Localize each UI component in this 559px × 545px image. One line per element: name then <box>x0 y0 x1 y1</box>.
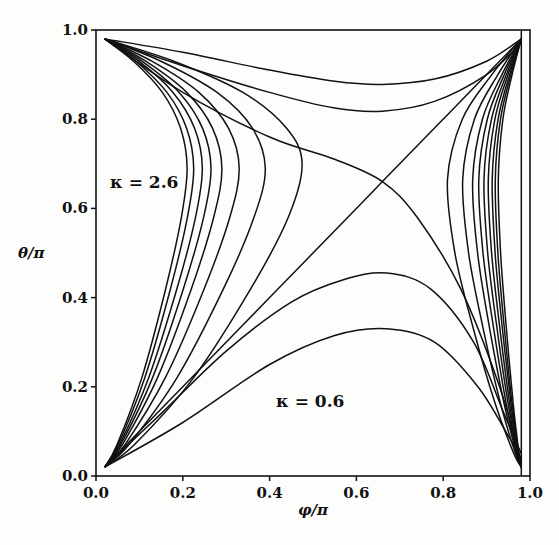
curve-top-1 <box>105 39 522 85</box>
x-tick-label: 0.0 <box>83 484 109 502</box>
x-axis-label: φ/π <box>298 501 329 519</box>
x-tick-label: 0.6 <box>343 484 369 502</box>
annotation-kappa-low: κ = 0.6 <box>276 391 344 411</box>
curve-left-7 <box>105 39 266 467</box>
curve-left-5 <box>105 39 222 467</box>
y-tick-label: 0.0 <box>62 467 88 485</box>
y-axis-label: θ/π <box>18 244 45 262</box>
y-tick-label: 0.6 <box>62 199 88 217</box>
x-tick-label: 0.4 <box>257 484 283 502</box>
chart: 0.00.20.40.60.81.0 0.00.20.40.60.81.0 φ/… <box>0 0 559 545</box>
curve-left-4 <box>105 39 211 467</box>
x-tick-label: 0.8 <box>430 484 456 502</box>
y-tick-label: 0.2 <box>62 378 88 396</box>
x-tick-label: 0.2 <box>170 484 196 502</box>
curve-right-3 <box>473 39 522 467</box>
y-axis: 0.00.20.40.60.81.0 <box>62 21 96 485</box>
x-tick-label: 1.0 <box>517 484 543 502</box>
annotation-kappa-high: κ = 2.6 <box>110 172 178 192</box>
y-tick-label: 0.8 <box>62 110 88 128</box>
y-tick-label: 1.0 <box>62 21 88 39</box>
x-axis: 0.00.20.40.60.81.0 <box>83 476 543 502</box>
y-tick-label: 0.4 <box>62 289 88 307</box>
